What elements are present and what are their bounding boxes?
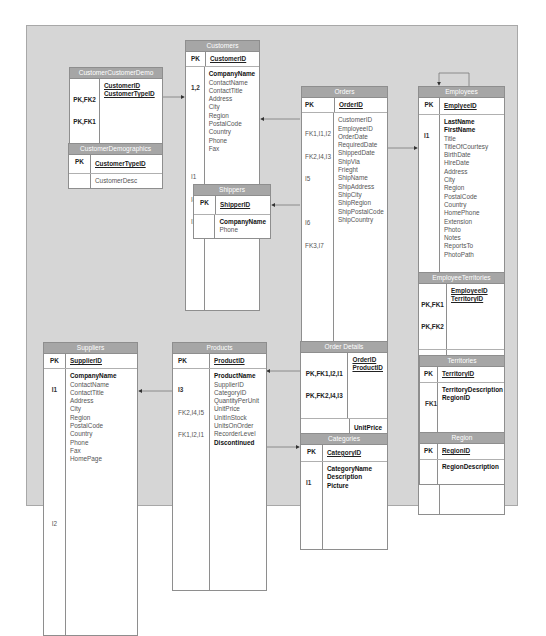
key-label: PK bbox=[302, 98, 335, 112]
primary-key-row: PK RegionID bbox=[420, 444, 504, 460]
column-name: Address bbox=[70, 397, 133, 405]
primary-key-row: PK,FK1 PK,FK2 EmployeeID TerritoryID bbox=[419, 284, 504, 350]
table-customer-demographics[interactable]: CustomerDemographics PK CustomerTypeID C… bbox=[68, 143, 163, 189]
column-name: CustomerDesc bbox=[95, 177, 158, 185]
column-name: ReportsTo bbox=[444, 242, 500, 250]
table-employee-territories[interactable]: EmployeeTerritories PK,FK1 PK,FK2 Employ… bbox=[418, 272, 505, 366]
key-label: PK bbox=[186, 52, 206, 66]
primary-key-row: PK TerritoryID bbox=[420, 367, 504, 383]
column-name: TerritoryDescription bbox=[442, 386, 503, 394]
key-label: PK bbox=[419, 98, 440, 114]
key-label bbox=[191, 151, 202, 159]
column-name: Address bbox=[209, 95, 256, 103]
column-name: HomePhone bbox=[444, 209, 500, 217]
key-label bbox=[46, 431, 63, 439]
pk-column: ProductID bbox=[352, 364, 383, 372]
key-label: I1 bbox=[46, 386, 63, 394]
column-name: Phone bbox=[209, 137, 256, 145]
key-label bbox=[178, 475, 207, 483]
table-header: Orders bbox=[302, 87, 387, 98]
column-name: ShipCity bbox=[338, 191, 384, 199]
table-customers[interactable]: Customers PK CustomerID 1,2 I1 I4 I3 Com… bbox=[185, 40, 260, 311]
column-name: ShipVia bbox=[338, 158, 384, 166]
key-label bbox=[191, 240, 202, 248]
key-label bbox=[178, 453, 207, 461]
table-suppliers[interactable]: Suppliers PK SupplierID I1 I2 CompanyNam… bbox=[43, 342, 138, 636]
column-name: Country bbox=[70, 430, 133, 438]
key-label bbox=[305, 264, 331, 272]
table-region[interactable]: Region PK RegionID RegionDescription bbox=[419, 432, 505, 485]
key-label: PK,FK2,I4,I3 bbox=[303, 392, 345, 400]
column-name: Picture bbox=[327, 482, 383, 490]
key-label: PK bbox=[420, 367, 438, 382]
key-label: PK bbox=[194, 196, 216, 214]
table-header: Territories bbox=[420, 356, 504, 367]
primary-key-row: PK ProductID bbox=[173, 354, 266, 369]
key-label: FK2,I4,I5 bbox=[178, 409, 207, 417]
table-header: EmployeeTerritories bbox=[419, 273, 504, 284]
key-label bbox=[424, 199, 437, 207]
key-label bbox=[306, 501, 320, 509]
column-name: PhotoPath bbox=[444, 251, 500, 259]
column-name: PostalCode bbox=[444, 193, 500, 201]
pk-column: TerritoryID bbox=[451, 295, 500, 303]
key-label bbox=[46, 453, 63, 461]
pk-column: CustomerTypeID bbox=[104, 90, 158, 98]
table-header: CustomerCustomerDemo bbox=[70, 68, 162, 79]
column-name: Photo bbox=[444, 226, 500, 234]
column-name: RegionID bbox=[442, 394, 503, 402]
pk-column: CustomerTypeID bbox=[95, 160, 158, 168]
column-name: UnitPrice bbox=[214, 405, 262, 413]
column-name: ContactTitle bbox=[209, 87, 256, 95]
pk-column: RegionID bbox=[442, 447, 500, 455]
column-name: CompanyName bbox=[209, 70, 256, 78]
key-label bbox=[424, 177, 437, 185]
key-label: PK bbox=[44, 354, 66, 368]
column-name: Fax bbox=[209, 145, 256, 153]
column-name: City bbox=[70, 405, 133, 413]
column-name: CustomerID bbox=[338, 116, 384, 124]
key-label: FK1,I1,I2 bbox=[305, 130, 331, 138]
column-name: Phone bbox=[219, 226, 266, 234]
pk-column: OrderID bbox=[339, 101, 383, 109]
key-label bbox=[46, 475, 63, 483]
key-label bbox=[46, 587, 63, 595]
column-name: Notes bbox=[444, 234, 500, 242]
fields-row: CompanyName Phone bbox=[194, 215, 270, 238]
column-name: TitleOfCourtesy bbox=[444, 143, 500, 151]
column-name: RecorderLevel bbox=[214, 430, 262, 438]
primary-key-row: PK CustomerTypeID bbox=[69, 155, 162, 174]
key-label bbox=[305, 309, 331, 317]
column-name: UnitInStock bbox=[214, 414, 262, 422]
column-name: ContactName bbox=[209, 79, 256, 87]
column-name: CategoryID bbox=[214, 389, 262, 397]
pk-column: SupplierID bbox=[70, 357, 133, 365]
primary-key-row: PK ShipperID bbox=[194, 196, 270, 215]
column-name: LastName bbox=[444, 118, 500, 126]
column-name: ShippedDate bbox=[338, 149, 384, 157]
column-name: ShipCountry bbox=[338, 216, 384, 224]
table-header: Suppliers bbox=[44, 343, 137, 354]
key-label: PK,FK1 bbox=[421, 301, 444, 309]
key-label: FK2,I4,I3 bbox=[305, 153, 331, 161]
pk-column: ProductID bbox=[214, 357, 262, 365]
key-label: I2 bbox=[46, 520, 63, 528]
key-label: PK bbox=[420, 444, 438, 459]
table-header: CustomerDemographics bbox=[69, 144, 162, 155]
table-header: Employees bbox=[419, 87, 504, 98]
column-name: Region bbox=[444, 184, 500, 192]
key-label bbox=[46, 498, 63, 506]
primary-key-row: PK SupplierID bbox=[44, 354, 137, 369]
primary-key-row: PK EmplyeeID bbox=[419, 98, 504, 115]
column-name: PostalCode bbox=[209, 120, 256, 128]
key-label: I6 bbox=[305, 219, 331, 227]
pk-column: CustomerID bbox=[104, 82, 158, 90]
column-name: RegionDescription bbox=[442, 463, 500, 471]
column-name: City bbox=[444, 176, 500, 184]
table-categories[interactable]: Categories PK CategoryID I1 CategoryName… bbox=[300, 433, 388, 550]
key-label: I1 bbox=[191, 173, 202, 181]
key-label: FK3,I7 bbox=[305, 242, 331, 250]
table-shippers[interactable]: Shippers PK ShipperID CompanyName Phone bbox=[193, 184, 271, 239]
key-label: I3 bbox=[178, 386, 207, 394]
table-products[interactable]: Products PK ProductID I3 FK2,I4,I5 FK1,I… bbox=[172, 342, 267, 591]
